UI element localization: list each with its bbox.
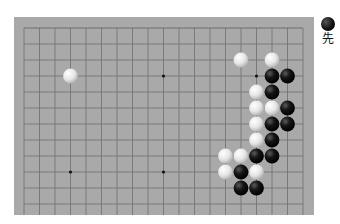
white-stone	[218, 149, 233, 164]
turn-label: 先	[318, 32, 338, 46]
white-stone	[63, 69, 78, 84]
white-stone	[234, 53, 249, 68]
white-stone	[249, 117, 264, 132]
black-stone	[265, 149, 280, 164]
black-stone	[280, 101, 295, 116]
white-stone	[249, 133, 264, 148]
black-stone	[265, 69, 280, 84]
white-stone	[234, 149, 249, 164]
black-stone	[280, 117, 295, 132]
board-grid[interactable]	[14, 17, 314, 215]
black-stone	[265, 117, 280, 132]
black-stone	[265, 133, 280, 148]
white-stone	[249, 165, 264, 180]
white-stone	[218, 165, 233, 180]
star-point	[162, 74, 165, 77]
black-stone	[265, 85, 280, 100]
star-point	[255, 74, 258, 77]
turn-indicator: 先	[318, 15, 338, 46]
white-stone	[265, 53, 280, 68]
go-board[interactable]	[14, 17, 314, 215]
black-stone	[280, 69, 295, 84]
white-stone	[249, 85, 264, 100]
black-stone-icon	[321, 17, 335, 31]
black-stone	[234, 181, 249, 196]
black-stone	[234, 165, 249, 180]
white-stone	[249, 101, 264, 116]
star-point	[162, 170, 165, 173]
white-stone	[265, 101, 280, 116]
star-point	[69, 170, 72, 173]
black-stone	[249, 181, 264, 196]
black-stone	[249, 149, 264, 164]
